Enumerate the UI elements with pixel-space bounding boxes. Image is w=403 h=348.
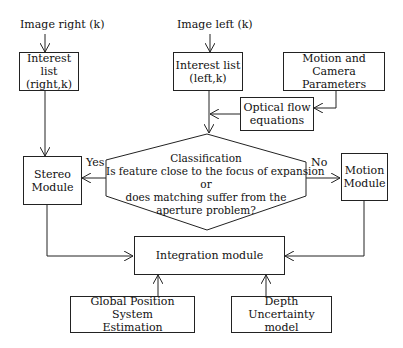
box-line: Parameters bbox=[302, 78, 366, 91]
image-left-label: Image left (k) bbox=[177, 18, 253, 31]
box-line: Interest list bbox=[20, 52, 78, 78]
box-line: Module bbox=[31, 181, 73, 194]
motion-camera-params-box: Motion and Camera Parameters bbox=[283, 52, 385, 91]
box-line: (right,k) bbox=[26, 78, 72, 91]
stereo-module-box: Stereo Module bbox=[23, 156, 82, 205]
box-line: model bbox=[264, 321, 298, 334]
box-line: Integration module bbox=[156, 249, 264, 262]
box-line: Depth Uncertainty bbox=[232, 295, 331, 321]
depth-uncertainty-box: Depth Uncertainty model bbox=[231, 296, 332, 333]
box-line: Module bbox=[343, 177, 385, 190]
decision-line: or bbox=[106, 178, 306, 191]
motion-module-box: Motion Module bbox=[341, 153, 388, 201]
decision-line: does matching suffer from the bbox=[106, 191, 306, 204]
optical-flow-box: Optical flow equations bbox=[240, 97, 314, 131]
box-line: Optical flow bbox=[243, 101, 310, 114]
box-line: Motion bbox=[345, 164, 385, 177]
interest-list-right-box: Interest list (right,k) bbox=[19, 52, 79, 91]
decision-line: Is feature close to the focus of expansi… bbox=[106, 165, 306, 178]
box-line: Interest list bbox=[176, 59, 241, 72]
yes-label: Yes bbox=[86, 156, 104, 169]
classification-decision: Classification Is feature close to the f… bbox=[106, 152, 306, 217]
no-label: No bbox=[311, 156, 327, 169]
decision-line: aperture problem? bbox=[106, 204, 306, 217]
box-line: Stereo bbox=[34, 168, 71, 181]
integration-module-box: Integration module bbox=[134, 236, 285, 275]
box-line: (left,k) bbox=[189, 72, 226, 85]
box-line: equations bbox=[250, 114, 304, 127]
box-line: Motion and Camera bbox=[284, 52, 384, 78]
decision-title: Classification bbox=[106, 152, 306, 165]
interest-list-left-box: Interest list (left,k) bbox=[173, 52, 243, 91]
gps-estimation-box: Global Position System Estimation bbox=[70, 296, 195, 333]
box-line: Estimation bbox=[102, 321, 162, 334]
box-line: Global Position System bbox=[71, 295, 194, 321]
image-right-label: Image right (k) bbox=[20, 18, 104, 31]
